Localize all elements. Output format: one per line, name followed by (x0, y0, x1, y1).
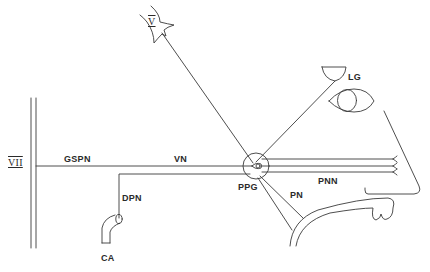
label-pnn: PNN (318, 177, 338, 186)
nose-outline (365, 111, 420, 194)
carotid-artery-icon (102, 214, 122, 243)
label-vii: VII (8, 158, 23, 168)
posterior-nasal-nerves-lines (262, 156, 397, 175)
lacrimal-gland-icon (322, 67, 346, 81)
label-ca: CA (101, 254, 115, 263)
eye-icon (329, 89, 374, 112)
diagram-canvas: V VII GSPN VN DPN CA PPG PN PNN LG (0, 0, 430, 272)
label-pn: PN (290, 191, 303, 200)
trigeminal-arrow-icon (140, 6, 174, 43)
label-vn: VN (174, 155, 187, 164)
label-gspn: GSPN (64, 155, 91, 164)
label-ppg: PPG (238, 183, 258, 192)
lacrimal-nerve-line (256, 81, 335, 162)
nerve-diagram (0, 0, 430, 272)
label-lg: LG (348, 73, 361, 82)
trigeminal-nerve-line (162, 33, 253, 163)
facial-nerve-lines (31, 98, 36, 248)
palate-outline (290, 198, 394, 246)
label-dpn: DPN (122, 194, 142, 203)
palatine-nerve-lines (258, 176, 303, 230)
label-v: V (148, 17, 156, 27)
